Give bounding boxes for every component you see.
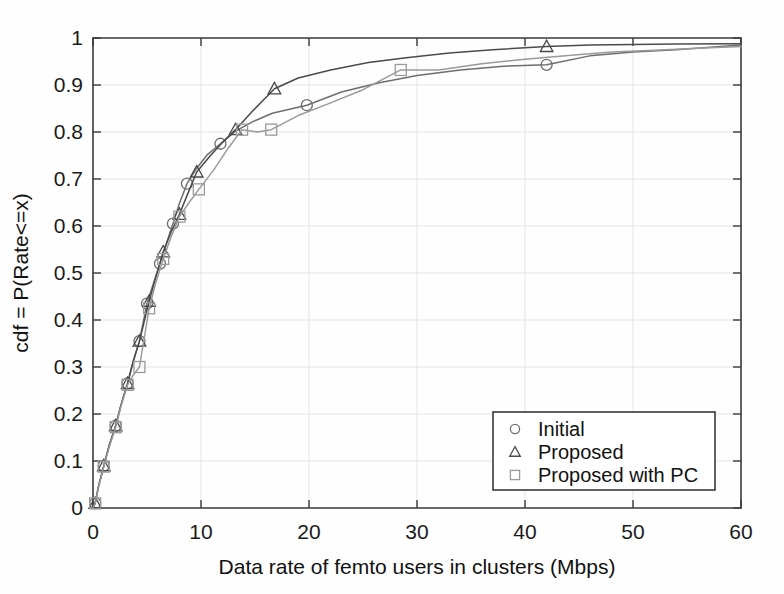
y-tick-label: 0.6 bbox=[54, 214, 83, 237]
y-tick-label: 1 bbox=[71, 26, 83, 49]
y-tick-label: 0.3 bbox=[54, 355, 83, 378]
y-tick-label: 0.4 bbox=[54, 308, 84, 331]
cdf-chart: 010203040506000.10.20.30.40.50.60.70.80.… bbox=[0, 0, 784, 594]
y-tick-label: 0.9 bbox=[54, 73, 83, 96]
x-tick-label: 20 bbox=[297, 520, 320, 543]
legend-item-label: Proposed bbox=[538, 441, 624, 463]
x-tick-label: 40 bbox=[513, 520, 536, 543]
figure-container: 010203040506000.10.20.30.40.50.60.70.80.… bbox=[0, 0, 784, 594]
y-tick-label: 0.1 bbox=[54, 449, 83, 472]
legend-item-label: Initial bbox=[538, 418, 585, 440]
y-tick-label: 0.2 bbox=[54, 402, 83, 425]
x-tick-label: 0 bbox=[87, 520, 99, 543]
x-tick-label: 10 bbox=[189, 520, 212, 543]
x-tick-label: 50 bbox=[621, 520, 644, 543]
y-tick-label: 0.5 bbox=[54, 261, 83, 284]
y-tick-label: 0.8 bbox=[54, 120, 83, 143]
legend: InitialProposedProposed with PC bbox=[493, 412, 715, 490]
legend-item-label: Proposed with PC bbox=[538, 464, 698, 486]
legend-item-proposed-with-pc[interactable]: Proposed with PC bbox=[510, 464, 698, 486]
y-tick-label: 0 bbox=[71, 496, 83, 519]
x-tick-label: 30 bbox=[405, 520, 428, 543]
y-axis-label: cdf = P(Rate<=x) bbox=[9, 193, 32, 352]
x-axis-label: Data rate of femto users in clusters (Mb… bbox=[219, 555, 616, 578]
y-tick-label: 0.7 bbox=[54, 167, 83, 190]
x-tick-label: 60 bbox=[729, 520, 752, 543]
